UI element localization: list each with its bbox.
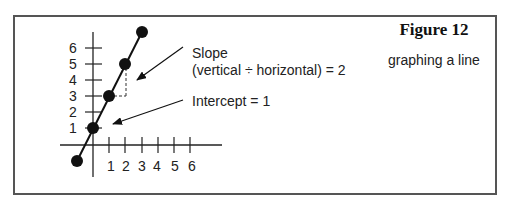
x-tick-label: 2 xyxy=(122,158,130,174)
data-point xyxy=(119,58,131,70)
intercept-arrow xyxy=(113,100,183,124)
data-point xyxy=(103,90,115,102)
y-tick-label: 3 xyxy=(69,88,77,104)
figure-title: Figure 12 xyxy=(374,20,494,40)
slope-label: Slope xyxy=(192,45,228,61)
y-tick-labels: 1 2 3 4 5 6 xyxy=(69,40,77,136)
x-tick-label: 4 xyxy=(153,158,161,174)
slope-arrow xyxy=(137,47,183,80)
y-tick-label: 5 xyxy=(69,56,77,72)
figure-subtitle: graphing a line xyxy=(364,52,504,68)
x-tick-label: 6 xyxy=(188,158,196,174)
data-point xyxy=(71,155,83,167)
data-point xyxy=(87,122,99,134)
y-tick-label: 2 xyxy=(69,104,77,120)
x-tick-labels: 1 2 3 4 5 6 xyxy=(107,158,196,174)
y-tick-label: 6 xyxy=(69,40,77,56)
x-tick-label: 3 xyxy=(138,158,146,174)
data-point xyxy=(136,26,148,38)
x-tick-label: 1 xyxy=(107,158,115,174)
y-tick-label: 4 xyxy=(69,72,77,88)
intercept-label: Intercept = 1 xyxy=(192,93,270,109)
x-tick-label: 5 xyxy=(171,158,179,174)
slope-formula: (vertical ÷ horizontal) = 2 xyxy=(192,62,346,78)
y-tick-label: 1 xyxy=(69,120,77,136)
